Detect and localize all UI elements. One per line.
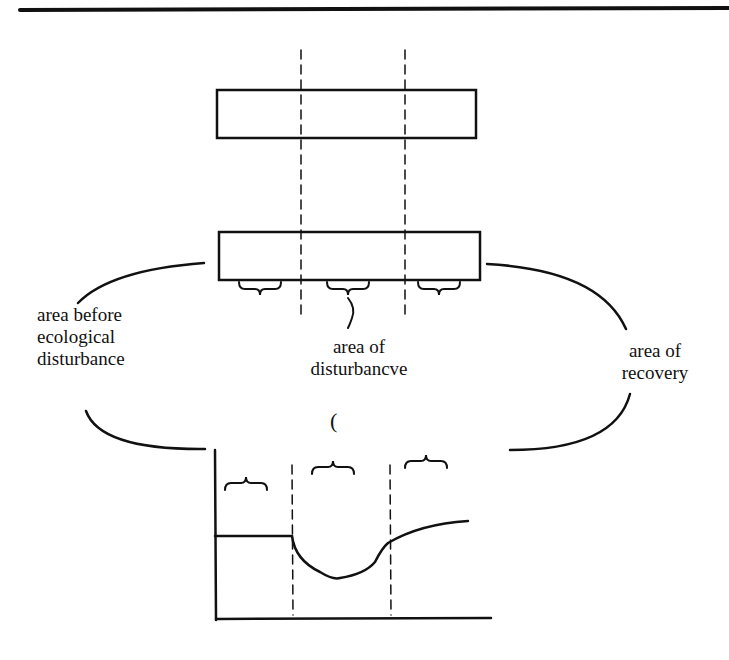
brace-disturbance [327,282,369,295]
graph-brace-before [225,477,267,490]
connector-arc-before-top [78,263,204,303]
brace-before [239,282,281,295]
graph-curve [215,521,468,578]
stray-parenthesis: ( [330,408,337,434]
label-line: recovery [596,362,714,384]
label-line: area of [282,336,436,358]
connector-arc-before-bottom [86,411,205,449]
graph-x-axis [216,618,491,619]
connector-arc-recovery-top [487,264,626,329]
upper-rectangle [217,90,476,138]
label-area-of-disturbance: area of disturbancve [282,336,436,380]
label-area-of-recovery: area of recovery [596,340,714,384]
label-line: area of [596,340,714,362]
label-line: disturbance [37,348,125,370]
disturbance-pointer [348,298,353,328]
label-area-before-disturbance: area before ecological disturbance [37,304,125,370]
top-rule [20,8,729,10]
connector-arc-recovery-bottom [510,394,630,450]
graph-brace-recovery [405,455,447,468]
label-line: area before [37,304,125,326]
middle-rectangle [219,232,480,280]
label-line: ecological [37,326,125,348]
label-line: disturbancve [282,358,436,380]
brace-recovery [418,282,460,295]
graph-brace-disturbance [312,461,354,474]
